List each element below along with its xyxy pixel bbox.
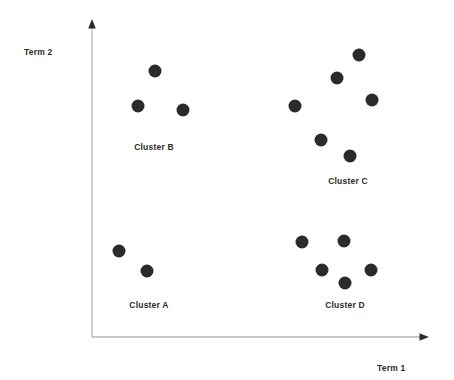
cluster-points-cluster-c [289, 49, 379, 163]
data-point [113, 245, 126, 258]
data-point [132, 100, 145, 113]
data-point [177, 104, 190, 117]
data-point [339, 277, 352, 290]
axes-group [88, 19, 429, 341]
scatter-plot-figure: Term 2 Term 1 Cluster BCluster CCluster … [0, 0, 454, 380]
data-point [365, 264, 378, 277]
data-markers-group [113, 49, 379, 290]
y-axis-label: Term 2 [24, 47, 52, 57]
data-point [149, 65, 162, 78]
cluster-label: Cluster B [134, 142, 174, 152]
data-point [315, 134, 328, 147]
data-point [344, 150, 357, 163]
data-point [296, 236, 309, 249]
cluster-label: Cluster A [129, 300, 168, 310]
cluster-label: Cluster C [328, 176, 368, 186]
y-axis-arrowhead [88, 19, 96, 29]
cluster-points-cluster-a [113, 245, 154, 278]
x-axis-arrowhead [420, 333, 430, 341]
data-point [316, 264, 329, 277]
data-point [338, 235, 351, 248]
data-point [141, 265, 154, 278]
data-point [366, 94, 379, 107]
cluster-points-cluster-b [132, 65, 190, 117]
data-point [289, 100, 302, 113]
chart-canvas [0, 0, 454, 380]
x-axis-label: Term 1 [377, 363, 405, 373]
data-point [331, 72, 344, 85]
cluster-label: Cluster D [325, 300, 365, 310]
data-point [353, 49, 366, 62]
cluster-points-cluster-d [296, 235, 378, 290]
